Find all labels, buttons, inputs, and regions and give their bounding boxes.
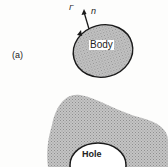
boundary-direction-arrow xyxy=(77,30,82,36)
body-shape xyxy=(67,18,138,84)
figure: (a) Γ n Body Hole xyxy=(0,0,168,167)
normal-vector-arrow xyxy=(82,9,90,29)
boundary-label: Γ xyxy=(69,4,74,12)
panel-label: (a) xyxy=(12,51,23,60)
body-label: Body xyxy=(89,40,114,50)
diagram-canvas xyxy=(0,0,168,167)
normal-label: n xyxy=(91,7,96,16)
hole-label: Hole xyxy=(82,150,102,159)
